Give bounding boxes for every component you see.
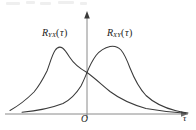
curve-label-rxy: RXY(τ)	[107, 28, 132, 39]
curve-rxy	[22, 46, 188, 113]
ryx-subscript: YX	[48, 31, 56, 38]
origin-label: O	[81, 115, 88, 125]
curve-label-ryx: RYX(τ)	[42, 28, 67, 39]
curve-ryx	[10, 47, 186, 113]
rxy-close-paren: )	[129, 27, 132, 38]
plot-canvas	[0, 0, 196, 130]
axes-group	[5, 11, 188, 118]
x-axis-label: τ	[183, 114, 186, 123]
rxy-subscript: XY	[113, 31, 121, 38]
y-axis-arrowhead	[84, 11, 90, 19]
ryx-close-paren: )	[64, 27, 67, 38]
correlation-function-figure: RYX(τ) RXY(τ) O τ	[0, 0, 196, 130]
